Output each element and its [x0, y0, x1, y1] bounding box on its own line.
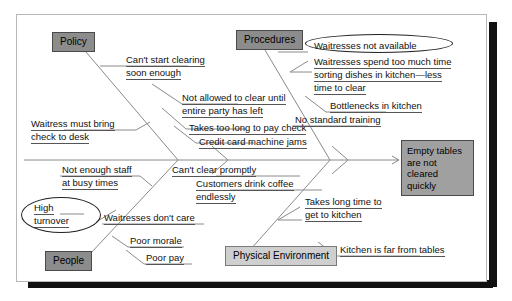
category-label-people: People	[53, 255, 84, 266]
cause-high-turnover[interactable]: High turnover	[34, 202, 69, 228]
cause-waitress-must-bring-check[interactable]: Waitress must bring check to desk	[31, 118, 115, 144]
cause-waitresses-not-available[interactable]: Waitresses not available	[314, 40, 417, 52]
cause-not-enough-staff[interactable]: Not enough staff at busy times	[62, 164, 132, 190]
cause-text-line-1: Credit card machine jams	[199, 136, 307, 149]
cause-text-line-1: Waitresses not available	[314, 40, 417, 51]
cause-customers-drink-coffee[interactable]: Customers drink coffee endlessly	[196, 178, 294, 204]
cause-text-line-2: sorting dishes in kitchen—less	[314, 69, 442, 82]
category-box-policy[interactable]: Policy	[52, 32, 95, 52]
cause-waitresses-sorting-dishes[interactable]: Waitresses spend too much time sorting d…	[314, 56, 451, 95]
category-label-policy: Policy	[60, 36, 87, 47]
cause-text-line-1: Waitresses spend too much time	[314, 56, 451, 69]
cause-takes-long-time-to-kitchen[interactable]: Takes long time to get to kitchen	[305, 196, 382, 222]
cause-cant-start-clearing[interactable]: Can't start clearing soon enough	[126, 54, 205, 80]
cause-not-allowed-to-clear[interactable]: Not allowed to clear until entire party …	[182, 92, 286, 118]
cause-text-line-1: Can't start clearing	[126, 54, 205, 67]
cause-text-line-1: Waitress must bring	[31, 118, 115, 131]
cause-text-line-2: check to desk	[31, 131, 89, 144]
cause-text-line-2: soon enough	[126, 67, 181, 80]
effect-line-1: Empty tables	[407, 145, 462, 156]
cause-text-line-1: High	[34, 202, 54, 215]
cause-text-line-1: Can't clear promptly	[172, 164, 256, 177]
cause-text-line-1: Poor morale	[130, 235, 182, 248]
cause-text-line-1: Not allowed to clear until	[182, 92, 286, 105]
cause-text-line-2: at busy times	[62, 177, 118, 190]
cause-text-line-1: Takes too long to pay check	[189, 122, 306, 135]
cause-takes-too-long-pay-check[interactable]: Takes too long to pay check	[189, 122, 306, 135]
effect-box[interactable]: Empty tables are not cleared quickly	[401, 140, 474, 196]
cause-text-line-1: Takes long time to	[305, 196, 382, 209]
category-box-physical-environment[interactable]: Physical Environment	[225, 246, 337, 266]
effect-line-3: quickly	[407, 180, 436, 191]
cause-text-line-1: Waitresses don't care	[104, 212, 195, 225]
cause-text-line-1: Kitchen is far from tables	[340, 244, 445, 257]
cause-text-line-1: Poor pay	[146, 252, 184, 265]
cause-poor-pay[interactable]: Poor pay	[146, 252, 184, 265]
cause-text-line-2: entire party has left	[182, 105, 263, 118]
page-shadow-right	[489, 22, 497, 287]
cause-text-line-2: endlessly	[196, 191, 236, 204]
cause-cant-clear-promptly[interactable]: Can't clear promptly	[172, 164, 256, 177]
cause-credit-card-machine-jams[interactable]: Credit card machine jams	[199, 136, 307, 149]
category-label-physical-environment: Physical Environment	[233, 250, 329, 261]
cause-waitresses-dont-care[interactable]: Waitresses don't care	[104, 212, 195, 225]
cause-kitchen-far-from-tables[interactable]: Kitchen is far from tables	[340, 244, 445, 257]
category-box-people[interactable]: People	[45, 251, 92, 271]
cause-text-line-1: No standard training	[295, 114, 381, 127]
cause-text-line-2: turnover	[34, 215, 69, 228]
cause-bottlenecks-in-kitchen[interactable]: Bottlenecks in kitchen	[330, 100, 422, 113]
category-box-procedures[interactable]: Procedures	[236, 30, 303, 50]
cause-text-line-1: Not enough staff	[62, 164, 132, 177]
cause-text-line-1: Customers drink coffee	[196, 178, 294, 191]
cause-text-line-3: time to clear	[314, 82, 366, 95]
cause-poor-morale[interactable]: Poor morale	[130, 235, 182, 248]
fishbone-diagram-canvas: Policy Procedures People Physical Enviro…	[0, 0, 512, 301]
effect-line-2: are not cleared	[407, 157, 438, 180]
category-label-procedures: Procedures	[244, 34, 295, 45]
cause-no-standard-training[interactable]: No standard training	[295, 114, 381, 127]
cause-text-line-2: get to kitchen	[305, 209, 362, 222]
cause-text-line-1: Bottlenecks in kitchen	[330, 100, 422, 113]
